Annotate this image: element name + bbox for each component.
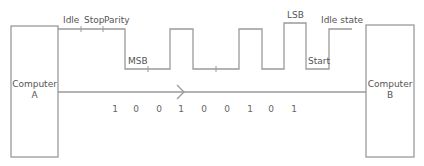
label-idle: Idle: [63, 16, 79, 25]
label-idle-state: Idle state: [321, 16, 363, 25]
bit-8: 1: [289, 105, 299, 114]
bit-6: 1: [245, 105, 255, 114]
computer-a-label-line1: Computer: [11, 79, 58, 90]
bit-5: 0: [222, 105, 232, 114]
computer-b-label-line1: Computer: [366, 79, 414, 90]
computer-a-label: Computer A: [11, 79, 58, 101]
bit-1: 0: [131, 105, 141, 114]
bit-0: 1: [110, 105, 120, 114]
computer-a-label-line2: A: [11, 90, 58, 101]
label-parity: Parity: [104, 16, 130, 25]
label-msb: MSB: [128, 57, 148, 66]
label-lsb: LSB: [287, 11, 304, 20]
bit-4: 0: [199, 105, 209, 114]
serial-transmission-diagram: Idle Stop Parity MSB LSB Start Idle stat…: [0, 0, 424, 166]
label-stop: Stop: [84, 16, 104, 25]
computer-b-label: Computer B: [366, 79, 414, 101]
bit-2: 0: [154, 105, 164, 114]
computer-b-label-line2: B: [366, 90, 414, 101]
bit-3: 1: [176, 105, 186, 114]
bit-7: 0: [266, 105, 276, 114]
label-start: Start: [308, 57, 330, 66]
